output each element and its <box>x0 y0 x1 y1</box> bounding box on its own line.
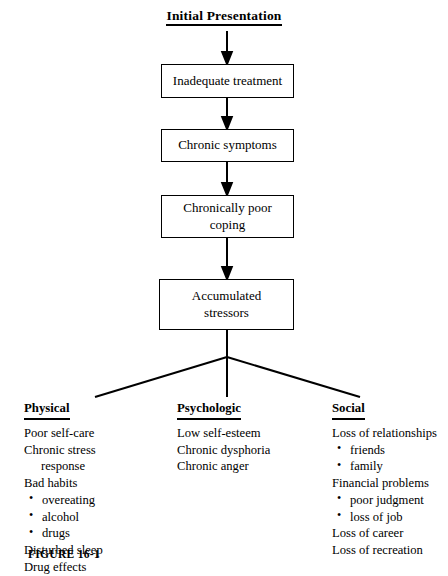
figure-title: Initial Presentation <box>0 8 448 24</box>
arrowhead-box3-to-box4 <box>222 267 232 279</box>
list-item: poor judgment <box>332 492 437 509</box>
list-item: Chronic stress <box>24 442 103 459</box>
list-item: Chronic dysphoria <box>177 442 270 459</box>
outcome-column-heading: Social <box>332 400 365 420</box>
outcome-list-social: Loss of relationships friends family Fin… <box>332 425 437 559</box>
flow-box-label: Chronically poor coping <box>177 200 277 233</box>
list-item: response <box>24 458 103 475</box>
branch-right-leg <box>227 357 360 397</box>
list-item: Low self-esteem <box>177 425 270 442</box>
list-item: Bad habits <box>24 475 103 492</box>
list-item: alcohol <box>24 509 103 526</box>
flow-box-chronic-symptoms: Chronic symptoms <box>161 129 294 162</box>
figure-caption: FIGURE 16-1 <box>28 548 100 560</box>
list-item: Financial problems <box>332 475 437 492</box>
list-item: Loss of recreation <box>332 542 437 559</box>
outcome-column-heading-wrap: Psychologic <box>177 400 270 425</box>
branch-left-leg <box>95 357 227 397</box>
arrowhead-box1-to-box2 <box>222 117 232 129</box>
flow-box-label: Inadequate treatment <box>167 73 288 89</box>
outcome-column-heading: Psychologic <box>177 400 241 420</box>
figure-title-text: Initial Presentation <box>166 8 281 26</box>
list-item: Loss of relationships <box>332 425 437 442</box>
list-item: friends <box>332 442 437 459</box>
flow-box-accumulated-stressors: Accumulated stressors <box>159 279 294 330</box>
outcome-column-psychologic: Psychologic Low self-esteem Chronic dysp… <box>177 400 270 475</box>
arrowhead-box2-to-box3 <box>222 183 232 195</box>
flow-box-label: Accumulated stressors <box>186 288 267 321</box>
list-item: family <box>332 458 437 475</box>
list-item: Loss of career <box>332 525 437 542</box>
arrowhead-title-to-box1 <box>222 52 232 64</box>
outcome-column-social: Social Loss of relationships friends fam… <box>332 400 437 559</box>
flow-box-label: Chronic symptoms <box>172 137 283 153</box>
list-item: drugs <box>24 525 103 542</box>
list-item: loss of job <box>332 509 437 526</box>
outcome-column-heading-wrap: Social <box>332 400 437 425</box>
outcome-column-heading-wrap: Physical <box>24 400 103 425</box>
outcome-list-psychologic: Low self-esteem Chronic dysphoria Chroni… <box>177 425 270 475</box>
flow-box-chronically-poor-coping: Chronically poor coping <box>161 195 294 238</box>
list-item: Drug effects <box>24 559 103 576</box>
flow-box-inadequate-treatment: Inadequate treatment <box>161 64 294 98</box>
outcome-column-heading: Physical <box>24 400 70 420</box>
list-item: Poor self-care <box>24 425 103 442</box>
list-item: overeating <box>24 492 103 509</box>
list-item: Chronic anger <box>177 458 270 475</box>
